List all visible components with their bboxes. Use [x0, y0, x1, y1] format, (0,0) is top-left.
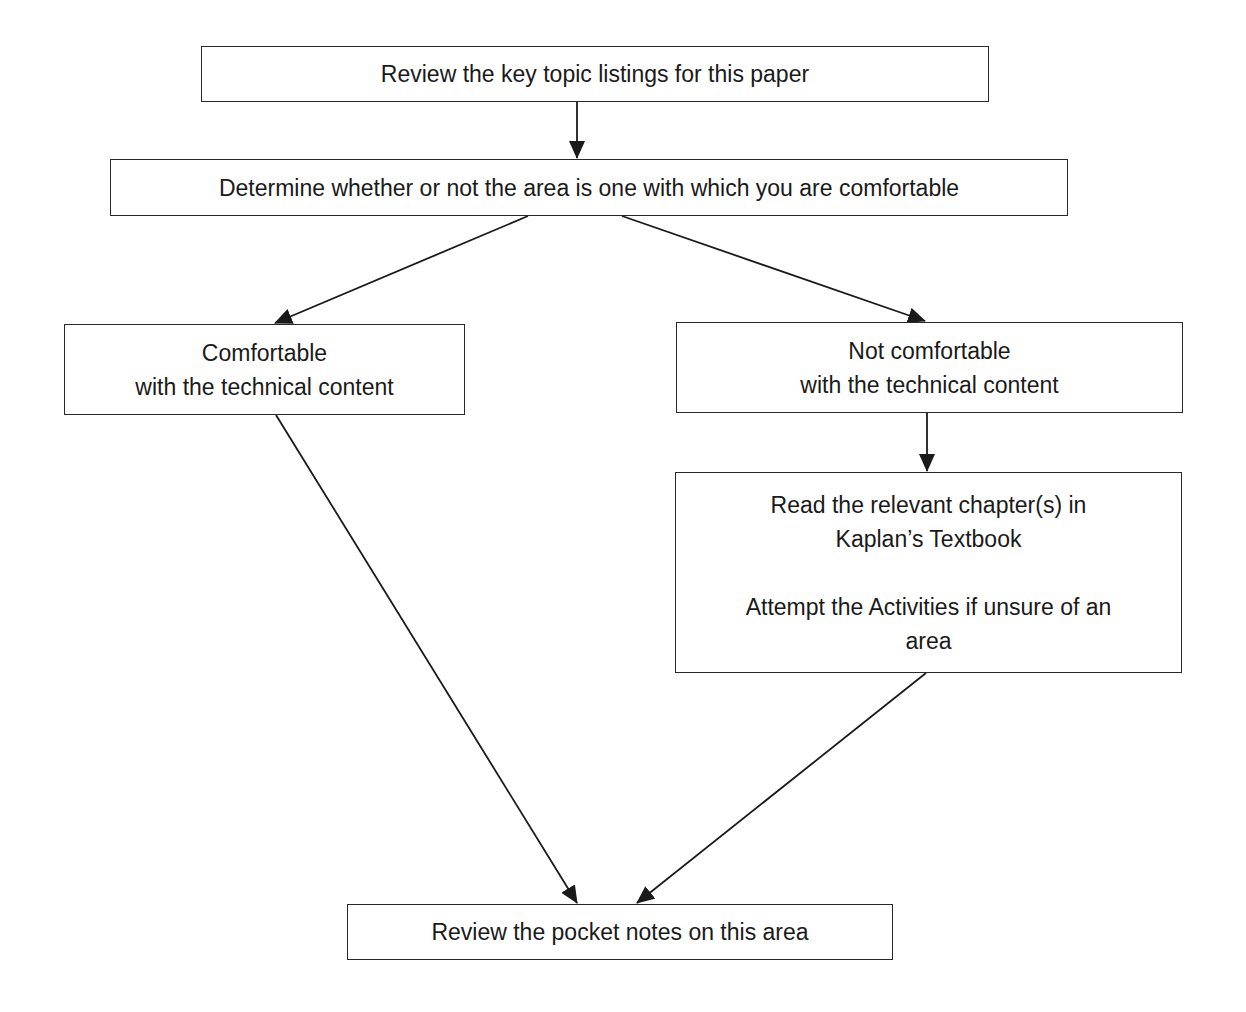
- node-read-chapters-line4: area: [905, 624, 951, 658]
- node-read-chapters-line2: Kaplan’s Textbook: [836, 522, 1022, 556]
- node-not-comfortable-line1: Not comfortable: [848, 334, 1010, 368]
- node-comfortable: Comfortable with the technical content: [64, 324, 465, 415]
- node-review-topics-text: Review the key topic listings for this p…: [381, 57, 809, 91]
- arrow-determine-to-not-comfortable: [622, 216, 925, 321]
- node-determine-text: Determine whether or not the area is one…: [219, 171, 959, 205]
- node-review-notes: Review the pocket notes on this area: [347, 904, 893, 960]
- node-not-comfortable-line2: with the technical content: [800, 368, 1058, 402]
- arrow-read-to-review-notes: [637, 673, 926, 903]
- node-determine: Determine whether or not the area is one…: [110, 159, 1068, 216]
- node-read-chapters-line3: Attempt the Activities if unsure of an: [746, 590, 1112, 624]
- node-not-comfortable: Not comfortable with the technical conte…: [676, 322, 1183, 413]
- node-read-chapters: Read the relevant chapter(s) in Kaplan’s…: [675, 472, 1182, 673]
- node-read-chapters-line1: Read the relevant chapter(s) in: [771, 488, 1087, 522]
- arrow-determine-to-comfortable: [275, 216, 528, 323]
- arrow-comfortable-to-review-notes: [276, 415, 577, 903]
- node-review-topics: Review the key topic listings for this p…: [201, 46, 989, 102]
- node-comfortable-line1: Comfortable: [202, 336, 327, 370]
- node-comfortable-line2: with the technical content: [135, 370, 393, 404]
- node-review-notes-text: Review the pocket notes on this area: [431, 915, 808, 949]
